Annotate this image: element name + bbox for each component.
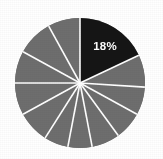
pie-labels-group: 18% — [93, 40, 117, 52]
pie-chart-svg: 18% — [0, 0, 163, 159]
pie-slices-group — [15, 18, 145, 148]
slice-data-label: 18% — [93, 40, 117, 52]
pie-chart-figure: 18% — [0, 0, 163, 159]
